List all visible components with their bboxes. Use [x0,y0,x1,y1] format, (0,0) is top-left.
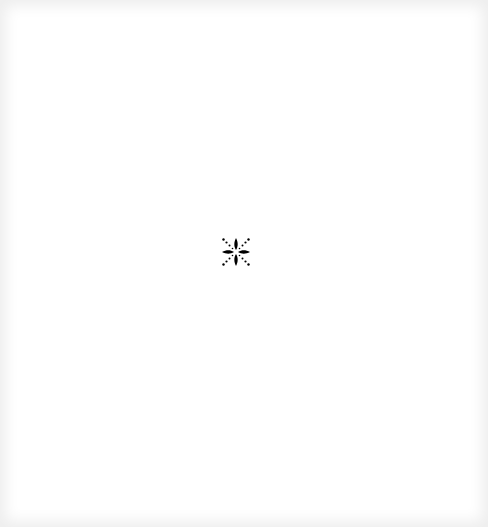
loading-label: Loading [219,269,220,270]
loading-spinner-icon [219,235,253,269]
loading-spinner: Loading [219,235,253,269]
loading-page: Loading [0,0,488,527]
